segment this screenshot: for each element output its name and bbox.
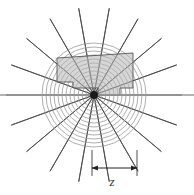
dimension-label-z: z (108, 174, 114, 189)
polar-radial-diagram: z (0, 0, 194, 195)
figure-container: z (0, 0, 194, 195)
center-hub-dot (90, 91, 98, 99)
